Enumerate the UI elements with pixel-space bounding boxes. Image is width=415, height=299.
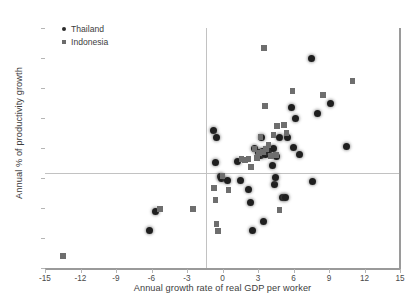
data-point-thailand xyxy=(272,174,279,181)
data-point-thailand xyxy=(327,100,334,107)
data-point-thailand xyxy=(282,194,289,201)
x-tick-mark xyxy=(81,269,82,273)
data-point-indonesia xyxy=(320,92,326,98)
x-tick-mark xyxy=(329,269,330,273)
y-tick-mark xyxy=(41,118,45,119)
x-tick-mark xyxy=(152,269,153,273)
legend-item-indonesia: Indonesia xyxy=(62,35,108,48)
data-point-indonesia xyxy=(157,206,163,212)
data-point-thailand xyxy=(276,134,283,141)
data-point-thailand xyxy=(309,178,316,185)
x-tick-label: 9 xyxy=(316,274,342,283)
plot-area: 15129630-3-6-9-15-12-9-6-303691215 xyxy=(45,28,400,268)
data-point-thailand xyxy=(343,143,350,150)
x-tick-mark xyxy=(116,269,117,273)
data-point-indonesia xyxy=(266,142,272,148)
data-point-indonesia xyxy=(190,206,196,212)
data-point-indonesia xyxy=(211,185,217,191)
legend: Thailand Indonesia xyxy=(62,22,108,48)
data-point-thailand xyxy=(314,110,321,117)
x-axis-title: Annual growth rate of real GDP per worke… xyxy=(45,283,400,293)
y-tick-mark xyxy=(41,208,45,209)
data-point-thailand xyxy=(247,199,254,206)
data-point-indonesia xyxy=(350,78,356,84)
x-tick-label: 12 xyxy=(352,274,378,283)
data-point-thailand xyxy=(288,104,295,111)
x-tick-mark xyxy=(45,269,46,273)
data-point-thailand xyxy=(269,162,276,169)
y-tick-mark xyxy=(41,238,45,239)
y-tick-mark xyxy=(41,28,45,29)
x-zero-axis-line xyxy=(206,28,207,268)
data-point-thailand xyxy=(237,177,244,184)
data-point-thailand xyxy=(245,186,252,193)
x-tick-label: -9 xyxy=(103,274,129,283)
x-tick-label: 3 xyxy=(245,274,271,283)
x-tick-mark xyxy=(400,269,401,273)
scatter-chart: Annual % of productivity growth Annual g… xyxy=(0,0,415,299)
plot-right-border xyxy=(399,28,402,269)
square-marker-icon xyxy=(62,40,66,44)
y-tick-mark xyxy=(41,88,45,89)
data-point-thailand xyxy=(210,127,217,134)
data-point-indonesia xyxy=(290,88,296,94)
legend-label-thailand: Thailand xyxy=(71,24,104,34)
x-tick-mark xyxy=(187,269,188,273)
circle-marker-icon xyxy=(62,27,66,31)
x-tick-label: -15 xyxy=(32,274,58,283)
y-axis-title: Annual % of productivity growth xyxy=(14,18,24,248)
data-point-thailand xyxy=(271,181,278,188)
data-point-indonesia xyxy=(262,103,268,109)
data-point-indonesia xyxy=(277,207,283,213)
data-point-indonesia xyxy=(254,155,260,161)
data-point-indonesia xyxy=(213,197,219,203)
data-point-thailand xyxy=(213,134,220,141)
x-tick-mark xyxy=(223,269,224,273)
data-point-indonesia xyxy=(274,123,280,129)
data-point-indonesia xyxy=(248,164,254,170)
data-point-indonesia xyxy=(226,187,232,193)
data-point-indonesia xyxy=(258,134,264,140)
data-point-thailand xyxy=(292,115,299,122)
x-tick-label: 0 xyxy=(210,274,236,283)
data-point-indonesia xyxy=(215,228,221,234)
x-tick-mark xyxy=(294,269,295,273)
x-tick-label: 15 xyxy=(387,274,413,283)
data-point-thailand xyxy=(260,218,267,225)
data-point-indonesia xyxy=(220,173,226,179)
data-point-indonesia xyxy=(214,221,220,227)
legend-label-indonesia: Indonesia xyxy=(71,37,108,47)
data-point-indonesia xyxy=(60,253,66,259)
y-tick-mark xyxy=(41,148,45,149)
legend-item-thailand: Thailand xyxy=(62,22,108,35)
data-point-indonesia xyxy=(246,156,252,162)
data-point-thailand xyxy=(146,227,153,234)
data-point-indonesia xyxy=(271,132,277,138)
data-point-thailand xyxy=(296,151,303,158)
data-point-indonesia xyxy=(261,45,267,51)
x-tick-label: -3 xyxy=(174,274,200,283)
y-tick-mark xyxy=(41,58,45,59)
x-tick-label: 6 xyxy=(281,274,307,283)
x-tick-label: -6 xyxy=(139,274,165,283)
data-point-thailand xyxy=(249,227,256,234)
data-point-thailand xyxy=(212,159,219,166)
x-tick-label: -12 xyxy=(68,274,94,283)
data-point-thailand xyxy=(308,55,315,62)
data-point-indonesia xyxy=(273,152,279,158)
data-point-thailand xyxy=(290,144,297,151)
y-tick-mark xyxy=(41,178,45,179)
data-point-indonesia xyxy=(284,130,290,136)
data-point-indonesia xyxy=(281,122,287,128)
x-tick-mark xyxy=(365,269,366,273)
x-tick-mark xyxy=(258,269,259,273)
